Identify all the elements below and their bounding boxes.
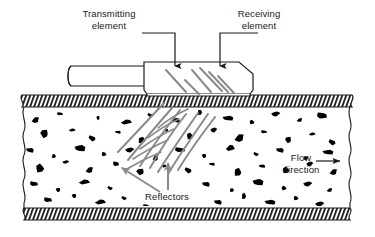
reflector-particle [52, 154, 56, 158]
reflector-particle [75, 145, 86, 151]
reflector-particle [285, 137, 291, 143]
reflector-particle [143, 204, 149, 207]
reflector-particle [230, 188, 234, 192]
label-transmitting-element: Transmitting element [66, 8, 152, 31]
reflector-particle [226, 145, 235, 151]
label-flow-direction: Flow direction [274, 152, 328, 175]
reflector-particle [214, 200, 222, 205]
reflector-particle [102, 152, 107, 157]
reflector-particle [185, 167, 192, 173]
reflector-particle [95, 200, 106, 205]
reflector-particle [69, 128, 76, 131]
signal-cable [68, 66, 146, 86]
reflector-particle [79, 180, 90, 185]
reflector-particle [265, 200, 276, 205]
reflector-particle [115, 131, 121, 134]
reflector-particle [235, 134, 244, 142]
label-receiving-element: Receiving element [216, 8, 302, 31]
reflector-particle [121, 120, 132, 125]
reflector-particle [297, 118, 303, 122]
reflector-particle [303, 181, 312, 186]
reflector-particle [253, 179, 264, 185]
reflector-particle [329, 139, 336, 145]
leader-line-receiving [220, 33, 258, 66]
reflector-particle [259, 165, 266, 168]
reflector-particle [40, 130, 47, 139]
reflector-particle [97, 116, 100, 120]
reflector-particle [107, 186, 112, 190]
reflector-particle [30, 181, 38, 186]
reflector-particle [253, 152, 258, 156]
ultrasonic-flowmeter-diagram: Transmitting element Receiving element F… [0, 0, 375, 237]
pipe-wall-top [21, 95, 353, 107]
reflector-particle [136, 169, 143, 175]
reflector-particle [202, 182, 210, 187]
reflector-particle [26, 148, 34, 153]
leader-line-transmitting [142, 33, 175, 66]
reflector-particle [261, 130, 267, 133]
break-line-left [23, 107, 25, 208]
reflector-particle [330, 169, 337, 175]
reflector-particle [327, 188, 333, 192]
reflector-particle [57, 112, 63, 115]
reflector-particle [242, 193, 246, 199]
reflector-particle [309, 132, 316, 135]
reflector-particle [209, 163, 215, 166]
reflector-particle [56, 188, 60, 192]
reflector-particle [32, 117, 39, 123]
reflector-particle [317, 112, 327, 118]
reflector-particle [89, 135, 96, 141]
reflector-particle [36, 163, 44, 172]
reflector-particle [113, 161, 119, 166]
label-reflectors: Reflectors [134, 191, 200, 203]
reflector-particle [86, 167, 93, 173]
reflector-particle [271, 111, 280, 116]
break-line-right [349, 107, 351, 208]
reflector-particle [282, 186, 287, 191]
reflector-particle [72, 194, 76, 198]
reflector-particle [202, 154, 206, 158]
reflector-particle [294, 196, 299, 201]
reflector-particle [198, 109, 202, 115]
reflector-particle [62, 160, 69, 163]
reflector-particle [210, 127, 217, 132]
reflector-particle [125, 147, 134, 152]
reflector-particle [121, 196, 126, 200]
pipe-wall-bottom [23, 208, 351, 220]
reflector-particle [315, 201, 324, 206]
reflector-particle [223, 116, 234, 121]
reflector-particle [44, 197, 52, 202]
reflector-particle [235, 168, 242, 176]
transducer-assembly [68, 62, 253, 96]
reflector-particle [250, 120, 255, 125]
